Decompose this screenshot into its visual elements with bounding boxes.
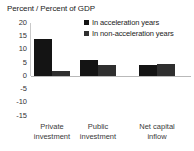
y-axis-line — [30, 23, 31, 76]
category-label-line-2: inflow — [127, 132, 187, 142]
legend-item-series-1[interactable]: In acceleration years — [84, 17, 174, 28]
bar-net-capital-inflow-acceleration — [139, 65, 157, 76]
chart-legend: In acceleration years In non-acceleratio… — [84, 17, 174, 39]
bar-public-investment-acceleration — [80, 60, 98, 76]
legend-label-series-1: In acceleration years — [92, 18, 159, 27]
category-label-line-2: investment — [68, 132, 128, 142]
bar-private-investment-acceleration — [34, 39, 52, 76]
y-tick-10: 10 — [19, 45, 27, 53]
y-tick-15: 15 — [19, 32, 27, 40]
legend-swatch-series-1-icon — [84, 20, 89, 25]
y-tick-5: 5 — [23, 59, 27, 67]
zero-baseline — [31, 76, 191, 77]
category-label-line-1: Public — [68, 122, 128, 132]
category-label-net-capital-inflow: Net capital inflow — [127, 122, 187, 142]
y-tick-neg15: -15 — [16, 112, 27, 120]
y-tick-20: 20 — [19, 19, 27, 27]
y-tick-0: 0 — [23, 72, 27, 80]
legend-item-series-2[interactable]: In non-acceleration years — [84, 28, 174, 39]
bar-private-investment-non-acceleration — [52, 71, 70, 76]
legend-label-series-2: In non-acceleration years — [92, 29, 174, 38]
y-tick-neg10: -10 — [16, 98, 27, 106]
legend-swatch-series-2-icon — [84, 31, 89, 36]
bar-chart: Percent / Percent of GDP In acceleration… — [0, 0, 194, 151]
category-label-public-investment: Public investment — [68, 122, 128, 142]
bar-public-investment-non-acceleration — [98, 65, 116, 76]
category-label-line-1: Net capital — [127, 122, 187, 132]
y-tick-neg5: -5 — [20, 85, 27, 93]
bar-net-capital-inflow-non-acceleration — [157, 64, 175, 76]
